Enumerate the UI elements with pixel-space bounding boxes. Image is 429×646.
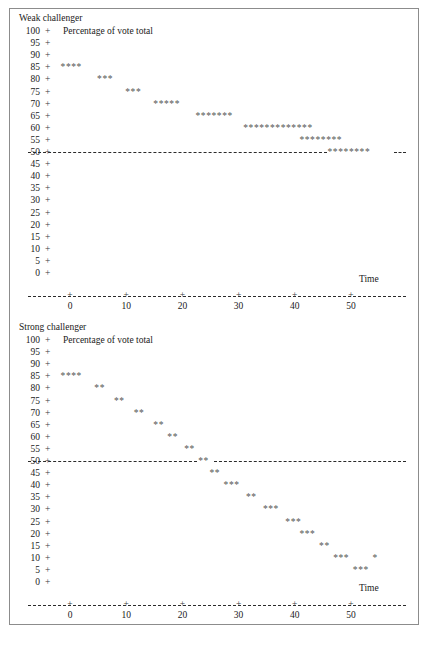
y-axis-row: 75+: [10, 86, 418, 98]
y-axis-tick-label: 95: [14, 37, 40, 49]
data-marker-run: **: [153, 419, 164, 431]
y-axis-tick-label: 55: [14, 443, 40, 455]
y-axis-row: 65+: [10, 419, 418, 431]
y-axis-tick-label: 95: [14, 346, 40, 358]
y-axis-row: 10+: [10, 552, 418, 564]
x-axis-tick-mark: +: [292, 290, 297, 300]
y-axis-tick-mark: +: [45, 231, 50, 243]
y-axis-tick-label: 100: [14, 25, 40, 37]
data-marker-run: ***: [285, 516, 301, 528]
y-axis-row: 15+: [10, 231, 418, 243]
y-axis-tick-mark: +: [45, 407, 50, 419]
y-axis-tick-label: 70: [14, 407, 40, 419]
y-axis-tick-label: 20: [14, 528, 40, 540]
y-axis-tick-label: 90: [14, 358, 40, 370]
x-axis-tick-label: 0: [68, 610, 73, 621]
data-marker-run: **: [198, 455, 209, 467]
y-axis-tick-label: 40: [14, 479, 40, 491]
data-marker-run: ***: [299, 528, 315, 540]
y-axis-tick-mark: +: [45, 255, 50, 267]
y-axis-row: 45+: [10, 158, 418, 170]
y-axis-tick-mark: +: [45, 382, 50, 394]
data-marker-run: ***: [224, 479, 240, 491]
y-axis-tick-mark: +: [45, 370, 50, 382]
y-axis-row: 5+: [10, 255, 418, 267]
x-axis-tick-mark: +: [348, 290, 353, 300]
y-axis-tick-label: 30: [14, 503, 40, 515]
data-marker-run: **: [114, 395, 125, 407]
y-axis-row: 30+: [10, 194, 418, 206]
y-axis-tick-mark: +: [45, 98, 50, 110]
y-axis-row: 70+: [10, 407, 418, 419]
x-axis-tick-label: 30: [234, 610, 244, 621]
data-marker-run: **: [134, 407, 145, 419]
y-axis-tick-label: 90: [14, 49, 40, 61]
y-axis-tick-label: 35: [14, 182, 40, 194]
x-axis-tick-label: 20: [178, 301, 188, 312]
x-axis-tick-mark: +: [124, 290, 129, 300]
y-axis-tick-mark: +: [45, 158, 50, 170]
y-axis-tick-mark: +: [45, 576, 50, 588]
x-axis-tick-mark: +: [67, 290, 72, 300]
y-axis-tick-label: 85: [14, 370, 40, 382]
y-axis-tick-mark: +: [45, 334, 50, 346]
y-axis-tick-label: 35: [14, 491, 40, 503]
y-axis-tick-label: 70: [14, 98, 40, 110]
y-axis-tick-mark: +: [45, 219, 50, 231]
figure-frame: Weak challenger 100+95+90+85+80+75+70+65…: [9, 8, 419, 625]
data-marker-run: *******: [195, 110, 232, 122]
y-axis-tick-mark: +: [45, 49, 50, 61]
data-marker-run: **: [246, 491, 257, 503]
data-marker-run: ***: [353, 564, 369, 576]
y-axis-tick-label: 25: [14, 207, 40, 219]
y-axis-tick-label: 5: [14, 255, 40, 267]
y-axis-tick-label: 85: [14, 61, 40, 73]
y-axis-tick-label: 20: [14, 219, 40, 231]
x-axis-tick-label: 40: [290, 610, 300, 621]
y-axis-tick-mark: +: [45, 134, 50, 146]
x-axis-tick-mark: +: [180, 290, 185, 300]
y-axis-tick-label: 10: [14, 243, 40, 255]
y-axis-tick-label: 40: [14, 170, 40, 182]
y-axis-tick-mark: +: [45, 358, 50, 370]
panel-title-weak-challenger: Weak challenger: [19, 13, 82, 24]
data-marker-run: *****: [153, 98, 180, 110]
y-axis-tick-label: 100: [14, 334, 40, 346]
y-axis-tick-mark: +: [45, 491, 50, 503]
x-axis-tick-mark: +: [236, 290, 241, 300]
data-marker-run: *************: [243, 122, 313, 134]
y-axis-row: 30+: [10, 503, 418, 515]
y-axis-row: 40+: [10, 170, 418, 182]
y-axis-tick-label: 55: [14, 134, 40, 146]
y-axis-row: 60+: [10, 122, 418, 134]
y-axis-tick-mark: +: [45, 37, 50, 49]
y-axis-row: 75+: [10, 395, 418, 407]
x-axis-tick-label: 30: [234, 301, 244, 312]
y-axis-tick-mark: +: [45, 395, 50, 407]
y-axis-tick-label: 25: [14, 516, 40, 528]
y-axis-tick-mark: +: [45, 194, 50, 206]
y-axis-row: 90+: [10, 358, 418, 370]
x-axis-tick-label: 0: [68, 301, 73, 312]
y-axis-tick-label: 65: [14, 110, 40, 122]
y-axis-caption-weak-challenger: Percentage of vote total: [63, 25, 153, 37]
y-axis-row: 40+: [10, 479, 418, 491]
y-axis-row: 60+: [10, 431, 418, 443]
x-axis-tick-mark: +: [180, 599, 185, 609]
reference-line-50: [214, 461, 406, 462]
y-axis-row: 55+: [10, 134, 418, 146]
data-marker-run: **: [319, 540, 330, 552]
y-axis-tick-label: 10: [14, 552, 40, 564]
y-axis-row: 0+: [10, 576, 418, 588]
chart-panel-weak-challenger: Weak challenger 100+95+90+85+80+75+70+65…: [10, 9, 418, 317]
data-marker-run: *: [372, 552, 377, 564]
chart-panel-strong-challenger: Strong challenger 100+95+90+85+80+75+70+…: [10, 318, 418, 626]
y-axis-tick-mark: +: [45, 552, 50, 564]
data-marker-run: ****: [61, 370, 82, 382]
y-axis-tick-label: 15: [14, 540, 40, 552]
y-axis-tick-mark: +: [45, 207, 50, 219]
data-marker-run: ********: [328, 146, 371, 158]
y-axis-tick-label: 60: [14, 122, 40, 134]
y-axis-row: 80+: [10, 382, 418, 394]
y-axis-tick-label: 0: [14, 576, 40, 588]
